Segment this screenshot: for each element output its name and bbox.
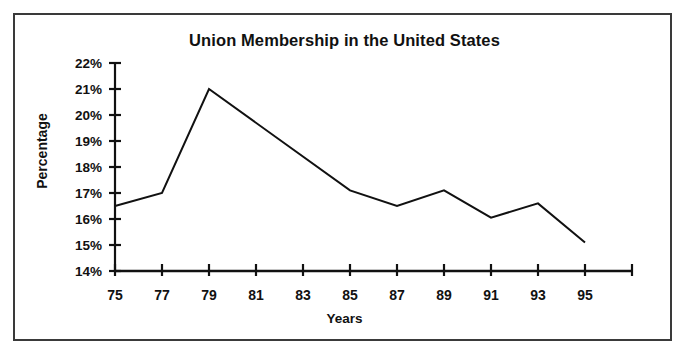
line-chart-plot: 14%15%16%17%18%19%20%21%22% 757779818385… [15, 15, 674, 343]
x-axis-tick-label: 89 [436, 287, 452, 303]
y-axis-tick-label: 21% [75, 82, 102, 97]
y-axis-tick-label: 17% [75, 186, 102, 201]
y-axis-tick-label: 20% [75, 108, 102, 123]
x-axis-tick-label: 79 [201, 287, 217, 303]
y-axis: 14%15%16%17%18%19%20%21%22% [75, 56, 121, 279]
x-axis-tick-label: 93 [530, 287, 546, 303]
union-membership-line [115, 89, 585, 242]
x-axis: 7577798183858789919395 [107, 264, 632, 303]
y-axis-tick-label: 15% [75, 238, 102, 253]
x-axis-tick-label: 87 [389, 287, 405, 303]
y-axis-tick-label: 14% [75, 264, 102, 279]
chart-frame: Union Membership in the United States Pe… [13, 13, 672, 341]
y-axis-tick-label: 19% [75, 134, 102, 149]
y-axis-tick-label: 22% [75, 56, 102, 71]
data-series-union-membership [115, 89, 585, 242]
x-axis-tick-label: 83 [295, 287, 311, 303]
y-axis-tick-label: 18% [75, 160, 102, 175]
x-axis-tick-label: 85 [342, 287, 358, 303]
x-axis-tick-label: 91 [483, 287, 499, 303]
y-axis-tick-label: 16% [75, 212, 102, 227]
x-axis-tick-label: 81 [248, 287, 264, 303]
x-axis-tick-label: 77 [154, 287, 170, 303]
x-axis-tick-label: 95 [577, 287, 593, 303]
x-axis-tick-label: 75 [107, 287, 123, 303]
